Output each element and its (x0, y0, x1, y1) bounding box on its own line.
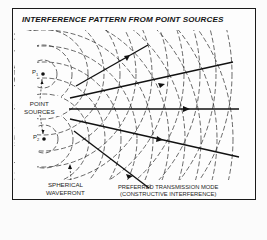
source-p2-dot (42, 137, 46, 141)
spherical-wavefront-label: SPHERICAL WAVEFRONT (46, 181, 85, 197)
preferred-transmission-label: PREFERRED TRANSMISSION MODE (CONSTRUCTIV… (118, 184, 218, 198)
spherical-line1: SPHERICAL (46, 181, 85, 189)
point-sources-line2: SOURCES (24, 108, 55, 116)
source-p1-label: P1 (32, 69, 38, 77)
point-sources-label: POINT SOURCES (24, 100, 55, 116)
preferred-line1: PREFERRED TRANSMISSION MODE (118, 184, 218, 191)
constructive-rays (69, 45, 239, 188)
spherical-line2: WAVEFRONT (46, 189, 85, 197)
preferred-line2: (CONSTRUCTIVE INTERFERENCE) (118, 191, 218, 198)
point-sources-line1: POINT (24, 100, 55, 108)
source-p1-dot (41, 72, 45, 76)
source-p2-label: P2 (33, 134, 39, 142)
